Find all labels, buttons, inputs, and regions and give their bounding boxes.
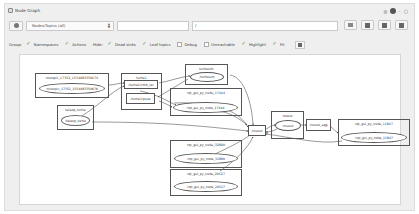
leaf-topics-checkbox[interactable]: Leaf topics (143, 42, 171, 47)
actions-checkbox[interactable]: Actions (65, 42, 86, 47)
node-rqt-gui-py-node-11847[interactable]: /rqt_gui_py_node_11847 (341, 132, 407, 143)
debug-checkbox[interactable]: Debug (177, 42, 197, 47)
dock-icon[interactable]: ▥ (384, 9, 387, 14)
checkbox-indicator (143, 42, 148, 47)
spinner-arrows-icon: ▲▼ (108, 23, 110, 30)
save-svg-button[interactable] (378, 20, 391, 30)
checkbox-indicator (204, 42, 209, 47)
save-dot-icon (365, 23, 370, 28)
cluster-label: rosout (272, 114, 303, 118)
load-dot-button[interactable] (344, 20, 357, 30)
save-dot-button[interactable] (361, 20, 374, 30)
hide-label: Hide: (93, 42, 103, 47)
refresh-button[interactable] (9, 21, 23, 31)
checkbox-label: Actions (72, 42, 86, 47)
file-buttons (344, 20, 408, 30)
topic-turtle1-cmd-vel[interactable]: /turtle1/cmd_vel (124, 80, 158, 89)
node-rqt-gui-py-node-32880[interactable]: /rqt_gui_py_node_32880 (174, 153, 238, 164)
options-gear-icon[interactable] (390, 8, 396, 14)
cluster-label: rostopic_17352_1554083350676 (36, 76, 108, 80)
cluster-label: rqt_gui_py_node_32880 (171, 143, 241, 147)
node-rosout[interactable]: /rosout (275, 120, 301, 131)
dead-sinks-checkbox[interactable]: Dead sinks (108, 42, 136, 47)
fit-view-icon (298, 43, 302, 47)
folder-icon (348, 23, 353, 27)
topic-turtle1-pose[interactable]: /turtle1/pose (126, 93, 155, 104)
graph-mode-value: Nodes/Topics (all) (32, 23, 65, 28)
checkbox-label: Leaf topics (150, 42, 171, 47)
refresh-icon (14, 23, 19, 28)
fit-view-button[interactable] (295, 41, 305, 49)
namespace-filter-input[interactable] (117, 21, 189, 31)
checkbox-label: Namespaces (34, 42, 58, 47)
node-turtlesim[interactable]: /turtlesim (190, 72, 224, 82)
save-image-icon (399, 23, 404, 28)
checkbox-indicator (242, 42, 247, 47)
window-icon (8, 8, 13, 13)
cluster-label: turtlesim (186, 67, 227, 71)
checkbox-indicator (108, 42, 113, 47)
save-image-button[interactable] (395, 20, 408, 30)
node-rqt-gui-py-node-20527[interactable]: /rqt_gui_py_node_20527 (174, 181, 238, 192)
node-graph-window: Node Graph ▥ - ○ Nodes/Topics (all) ▲▼ G… (4, 3, 415, 211)
title-bar: Node Graph (8, 6, 40, 14)
topic-rosout[interactable]: /rosout (248, 125, 266, 136)
highlight-checkbox[interactable]: Highlight (242, 42, 266, 47)
cluster-label: rqt_gui_py_node_17444 (171, 91, 241, 95)
checkbox-label: Unreachable (211, 42, 235, 47)
checkbox-indicator (177, 42, 182, 47)
cluster-label: rqt_gui_py_node_11847 (339, 122, 409, 126)
group-label: Group: (9, 42, 22, 47)
node-rostopic[interactable]: /rostopic_17352_1554083350676 (39, 83, 105, 94)
graph-mode-select[interactable]: Nodes/Topics (all) ▲▼ (26, 21, 114, 31)
options-toolbar: Group: Namespaces Actions Hide: Dead sin… (9, 40, 305, 49)
graph-canvas[interactable]: rostopic_17352_1554083350676 /rostopic_1… (19, 54, 401, 205)
close-icon[interactable]: ○ (404, 9, 408, 14)
checkbox-label: Debug (184, 42, 197, 47)
cluster-turtle1: turtle1 (121, 73, 162, 110)
cluster-label: teleop_turtle (58, 108, 93, 112)
checkbox-indicator (65, 42, 70, 47)
checkbox-label: Highlight (249, 42, 266, 47)
minimize-icon[interactable]: - (399, 9, 401, 14)
filter-toolbar: Nodes/Topics (all) ▲▼ (9, 20, 412, 31)
topic-filter-input[interactable] (192, 21, 338, 31)
checkbox-label: Dead sinks (115, 42, 136, 47)
save-svg-icon (382, 23, 387, 28)
cluster-label: rqt_gui_py_node_20527 (171, 172, 241, 176)
namespaces-checkbox[interactable]: Namespaces (27, 42, 58, 47)
node-rqt-gui-py-node-17444[interactable]: /rqt_gui_py_node_17444 (173, 102, 238, 113)
node-teleop-turtle[interactable]: /teleop_turtle (61, 115, 90, 126)
window-controls: ▥ - ○ (384, 8, 408, 14)
topic-rosout-agg[interactable]: /rosout_agg (306, 119, 331, 131)
fit-checkbox[interactable]: Fit (273, 42, 284, 47)
checkbox-indicator (273, 42, 278, 47)
window-title: Node Graph (15, 8, 40, 13)
checkbox-label: Fit (280, 42, 284, 47)
unreachable-checkbox[interactable]: Unreachable (204, 42, 235, 47)
checkbox-indicator (27, 42, 32, 47)
